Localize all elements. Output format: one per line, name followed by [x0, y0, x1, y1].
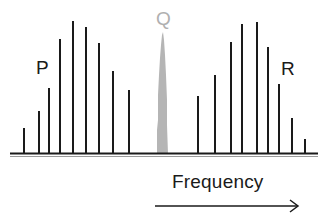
p-branch-label: P: [36, 58, 49, 77]
p-branch-lines: [24, 21, 129, 154]
r-branch-lines: [198, 22, 305, 154]
q-branch-label: Q: [156, 9, 171, 28]
q-branch-peak: [157, 32, 168, 154]
r-branch-label: R: [281, 59, 295, 78]
spectrum-plot: [0, 0, 326, 216]
frequency-axis-label: Frequency: [172, 171, 264, 193]
